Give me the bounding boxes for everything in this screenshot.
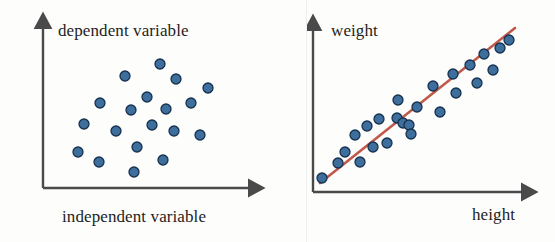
data-point — [495, 43, 505, 53]
data-point — [406, 129, 416, 139]
data-point — [120, 71, 130, 81]
left-data-points — [73, 59, 213, 177]
data-point — [374, 114, 384, 124]
data-point — [195, 130, 205, 140]
x-axis-label-height: height — [472, 206, 515, 223]
panel-positive-correlation: weight height — [307, 0, 555, 242]
data-point — [129, 167, 139, 177]
y-axis-label-weight: weight — [331, 22, 378, 39]
data-point — [362, 121, 372, 131]
data-point — [488, 65, 498, 75]
panel-no-correlation: dependent variable independent variable — [0, 0, 307, 242]
data-point — [158, 155, 168, 165]
data-point — [94, 157, 104, 167]
y-axis-label-dependent-variable: dependent variable — [58, 22, 189, 39]
data-point — [132, 142, 142, 152]
data-point — [171, 74, 181, 84]
data-point — [186, 98, 196, 108]
data-point — [428, 81, 438, 91]
data-point — [472, 78, 482, 88]
data-point — [465, 60, 475, 70]
data-point — [333, 158, 343, 168]
data-point — [111, 126, 121, 136]
data-point — [412, 102, 422, 112]
data-point — [368, 142, 378, 152]
data-point — [79, 119, 89, 129]
data-point — [142, 92, 152, 102]
left-axes — [43, 27, 250, 188]
data-point — [479, 49, 489, 59]
data-point — [95, 98, 105, 108]
data-point — [448, 69, 458, 79]
data-point — [404, 120, 414, 130]
data-point — [317, 173, 327, 183]
data-point — [504, 35, 514, 45]
data-point — [435, 107, 445, 117]
data-point — [355, 157, 365, 167]
x-axis-label-independent-variable: independent variable — [62, 208, 206, 225]
data-point — [393, 95, 403, 105]
data-point — [155, 59, 165, 69]
data-point — [382, 138, 392, 148]
data-point — [126, 105, 136, 115]
data-point — [350, 130, 360, 140]
data-point — [340, 147, 350, 157]
data-point — [161, 104, 171, 114]
data-point — [169, 126, 179, 136]
statistics-correlation-figure: dependent variable independent variable … — [0, 0, 555, 242]
data-point — [147, 120, 157, 130]
data-point — [203, 83, 213, 93]
data-point — [73, 147, 83, 157]
data-point — [451, 88, 461, 98]
